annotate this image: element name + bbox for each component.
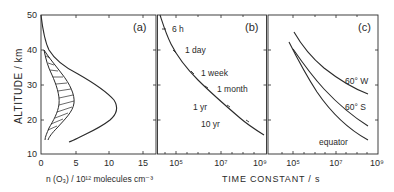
- a-xtick-0: 0: [38, 158, 43, 168]
- annotation-10yr: 10 yr: [201, 119, 220, 129]
- annotation-1month: 1 month: [217, 84, 248, 94]
- annotation-1yr: 1 yr: [193, 102, 207, 112]
- panel-a: (a) 0 5 10 15 n (O₃) / 10¹² molecules cm…: [38, 15, 156, 184]
- a-xtick-15: 15: [138, 158, 148, 168]
- band-left-edge: [44, 50, 59, 140]
- a-xtick-5: 5: [73, 158, 78, 168]
- panel-a-x-label: n (O₃) / 10¹² molecules cm⁻³: [46, 174, 153, 184]
- c-xtick-1e5: 10⁵: [286, 158, 300, 168]
- panel-a-frame: [41, 15, 156, 154]
- a-xtick-10: 10: [104, 158, 114, 168]
- annotation-1day: 1 day: [185, 45, 207, 55]
- y-tick-20: 20: [27, 115, 37, 125]
- label-60W: 60° W: [345, 76, 368, 86]
- ozone-figure: ALTITUDE / km 50 40 30 20 10: [0, 0, 394, 192]
- panel-b-annotations: 6 h 1 day 1 week 1 month 1 yr 10 yr: [172, 24, 248, 129]
- panel-b-x-ticks: 10⁵ 10⁷ 10⁹: [169, 158, 267, 168]
- panel-a-x-ticks: 0 5 10 15: [38, 158, 148, 168]
- hatched-band: [44, 50, 74, 140]
- hatch-lines: [46, 56, 74, 130]
- panel-b-label: (b): [245, 21, 258, 33]
- y-tick-labels: 50 40 30 20 10: [27, 10, 37, 159]
- y-axis-label: ALTITUDE / km: [13, 48, 24, 124]
- annotation-1week: 1 week: [201, 68, 229, 78]
- b-xtick-1e7: 10⁷: [214, 158, 227, 168]
- panel-a-label: (a): [133, 21, 146, 33]
- y-tick-30: 30: [27, 80, 37, 90]
- panel-c-label: (c): [358, 21, 371, 33]
- panel-c-x-ticks: 10⁵ 10⁷ 10⁹: [286, 158, 384, 168]
- y-tick-50: 50: [27, 10, 37, 20]
- panel-a-ticks: [41, 15, 156, 154]
- c-xtick-1e7: 10⁷: [329, 158, 342, 168]
- panel-b-frame: [158, 15, 267, 154]
- c-xtick-1e9: 10⁹: [370, 158, 384, 168]
- curve-equator: [289, 42, 368, 140]
- b-xtick-1e5: 10⁵: [169, 158, 183, 168]
- curve-60S: [293, 49, 368, 126]
- time-constant-x-label: TIME CONSTANT / s: [222, 174, 320, 184]
- label-equator: equator: [319, 137, 348, 147]
- panel-b-ticks: [158, 15, 267, 154]
- y-tick-40: 40: [27, 45, 37, 55]
- y-tick-10: 10: [27, 149, 37, 159]
- label-60S: 60° S: [345, 102, 366, 112]
- annotation-6h: 6 h: [172, 24, 184, 34]
- panel-b: 6 h 1 day 1 week 1 month 1 yr 10 yr (b) …: [158, 15, 268, 168]
- b-xtick-1e9: 10⁹: [253, 158, 267, 168]
- panel-c: 60° W 60° S equator (c) 10⁵ 10⁷ 10⁹: [268, 15, 384, 168]
